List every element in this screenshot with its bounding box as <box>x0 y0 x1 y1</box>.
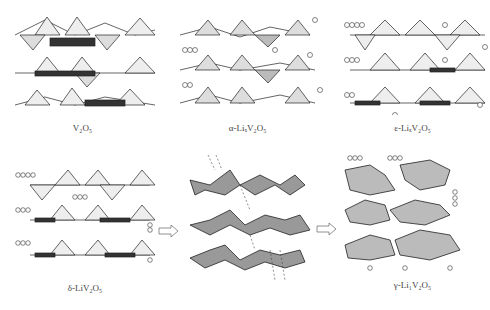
panel-alpha: α-LiₓV₂O₅ <box>170 5 325 115</box>
panel-label: γ-Li₁V₂O₅ <box>340 280 485 290</box>
panel-label: V₂O₅ <box>5 123 160 133</box>
panel-v2o5: V₂O₅ <box>5 5 160 115</box>
delta-layered-structure <box>10 165 160 280</box>
gamma-puckered-structure <box>340 150 485 280</box>
panel-transition <box>180 150 315 290</box>
panel-gamma: γ-Li₁V₂O₅ <box>340 150 485 280</box>
panel-delta: δ-LiV₂O₅ <box>10 165 160 280</box>
panel-label: δ-LiV₂O₅ <box>10 283 160 293</box>
alpha-layered-structure <box>170 5 325 115</box>
transform-arrow-icon <box>158 224 180 242</box>
panel-label: α-LiₓV₂O₅ <box>170 123 325 133</box>
panel-label: ε-LiₓV₂O₅ <box>335 123 490 133</box>
transform-arrow-icon <box>316 222 338 240</box>
transition-structure <box>180 150 315 290</box>
panel-epsilon: ε-LiₓV₂O₅ <box>335 5 490 115</box>
v2o5-layered-structure <box>5 5 160 115</box>
epsilon-layered-structure <box>335 5 490 115</box>
